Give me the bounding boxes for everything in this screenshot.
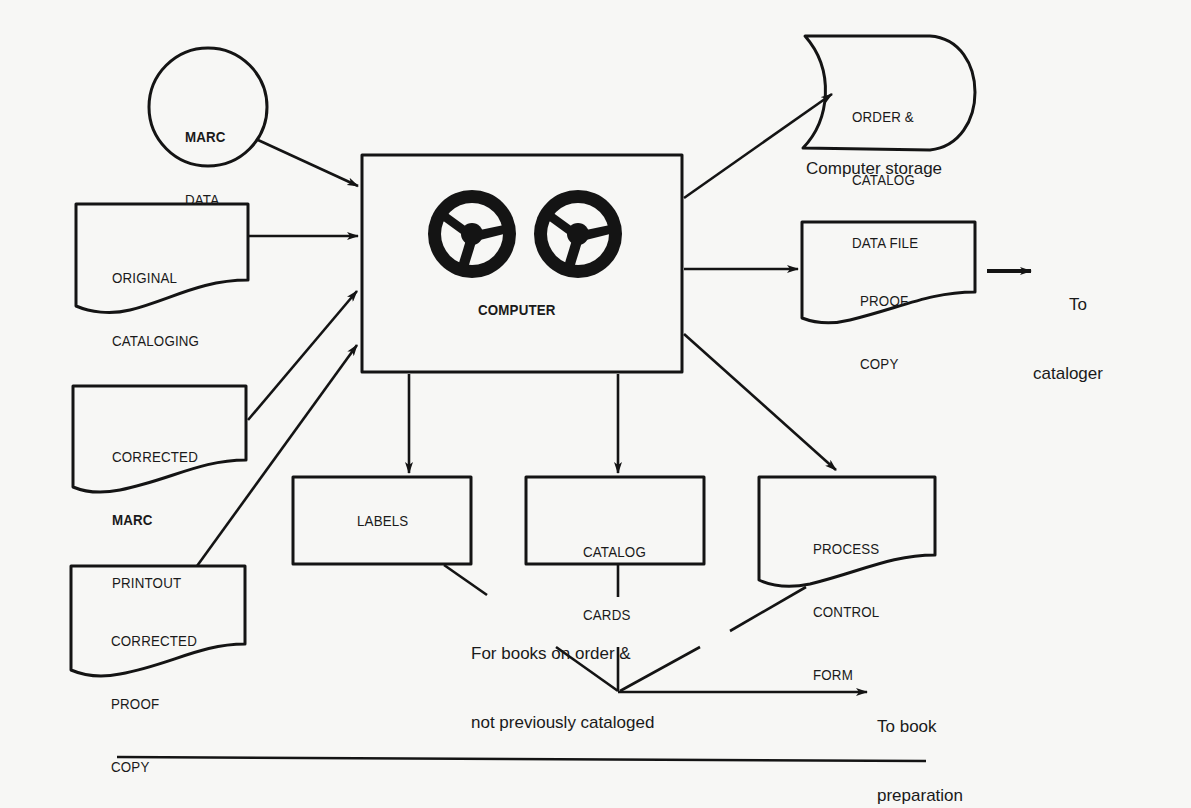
tape-reels-icon <box>428 190 622 278</box>
bottom-rule <box>117 757 926 761</box>
proof-copy-line2: COPY <box>860 353 908 374</box>
edge-printout-to-computer <box>248 291 357 420</box>
edge-marc-to-computer <box>258 140 358 186</box>
corrected-proof-copy-line2: PROOF <box>111 693 197 714</box>
process-control-form-line1: PROCESS <box>813 538 879 559</box>
to-cataloger-line2: cataloger <box>1033 362 1103 385</box>
corrected-marc-printout-line2: MARC <box>112 509 198 530</box>
original-cataloging-label: ORIGINAL CATALOGING <box>112 225 199 372</box>
for-books-line2: not previously cataloged <box>471 711 654 734</box>
marc-data-label: MARC DATA <box>185 84 226 231</box>
computer-storage-caption: Computer storage <box>806 157 942 180</box>
process-control-form-line2: CONTROL <box>813 601 879 622</box>
to-book-preparation-annotation: To book preparation <box>877 669 963 808</box>
edge-proofcopy-to-computer <box>197 345 357 566</box>
computer-node <box>362 155 682 372</box>
corrected-marc-printout-line1: CORRECTED <box>112 446 198 467</box>
order-catalog-data-file-line1: ORDER & <box>852 106 918 127</box>
labels-label: LABELS <box>357 510 408 531</box>
corrected-marc-printout-label: CORRECTED MARC PRINTOUT <box>112 404 198 614</box>
proof-copy-line1: PROOF <box>860 290 908 311</box>
to-book-preparation-line2: preparation <box>877 784 963 807</box>
marc-data-line1: MARC <box>185 126 226 147</box>
for-books-annotation: For books on order & not previously cata… <box>471 596 654 757</box>
marc-data-line2: DATA <box>185 189 226 210</box>
edge-pcf-down <box>730 587 806 631</box>
for-books-line1: For books on order & <box>471 642 654 665</box>
corrected-proof-copy-line1: CORRECTED <box>111 630 197 651</box>
proof-copy-label: PROOF COPY <box>860 248 908 395</box>
process-control-form-line3: FORM <box>813 664 879 685</box>
original-cataloging-line2: CATALOGING <box>112 330 199 351</box>
computer-label: COMPUTER <box>478 299 556 320</box>
edge-labels-down <box>444 565 487 595</box>
original-cataloging-line1: ORIGINAL <box>112 267 199 288</box>
catalog-cards-line1: CATALOG <box>583 541 646 562</box>
process-control-form-label: PROCESS CONTROL FORM <box>813 496 879 706</box>
to-book-preparation-line1: To book <box>877 715 963 738</box>
edge-computer-to-datafile <box>684 94 832 198</box>
corrected-proof-copy-line3: COPY <box>111 756 197 777</box>
to-cataloger-annotation: To cataloger <box>1033 247 1103 408</box>
corrected-proof-copy-label: CORRECTED PROOF COPY <box>111 588 197 798</box>
to-cataloger-line1: To <box>1033 293 1103 316</box>
edge-computer-to-pcf <box>684 334 836 470</box>
